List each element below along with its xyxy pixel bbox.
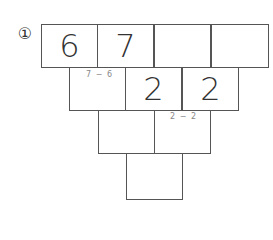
hint-2-minus-2: 2 − 2 — [170, 112, 197, 121]
cell-r0-c2[interactable] — [154, 24, 211, 68]
cell-r2-c0[interactable] — [98, 110, 155, 154]
cell-r0-c0[interactable]: 6 — [41, 24, 98, 68]
cell-r1-c2[interactable]: 2 — [182, 67, 239, 111]
cell-r3-c0[interactable] — [126, 153, 183, 200]
cell-r1-c1[interactable]: 2 — [125, 67, 182, 111]
hint-7-minus-6: 7 − 6 — [86, 70, 113, 79]
problem-number: ① — [15, 24, 35, 44]
cell-r0-c1[interactable]: 7 — [97, 24, 154, 68]
cell-r0-c3[interactable] — [211, 24, 269, 68]
